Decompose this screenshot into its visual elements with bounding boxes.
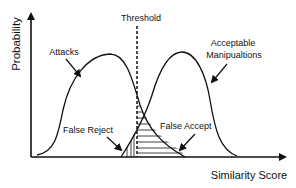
threshold-label: Threshold — [121, 13, 161, 23]
x-axis-label: Similarity Score — [211, 169, 287, 181]
attacks-label: Attacks — [49, 47, 79, 57]
attacks-curve — [37, 54, 185, 157]
false-reject-label: False Reject — [63, 125, 114, 135]
attacks-pointer-arrow — [66, 59, 80, 76]
y-axis-label: Probability — [10, 17, 22, 71]
acceptable-label-line2: Manipualtions — [206, 50, 262, 60]
acceptable-manipulations-curve — [121, 52, 237, 157]
acceptable-label-line1: Acceptable — [211, 38, 256, 48]
acceptable-pointer-arrow — [212, 64, 227, 82]
false-accept-label: False Accept — [160, 121, 212, 131]
false-accept-pointer-arrow — [180, 134, 195, 150]
false-reject-pointer-arrow — [107, 137, 121, 150]
similarity-distribution-diagram: Probability Similarity Score Threshold A… — [0, 0, 296, 188]
